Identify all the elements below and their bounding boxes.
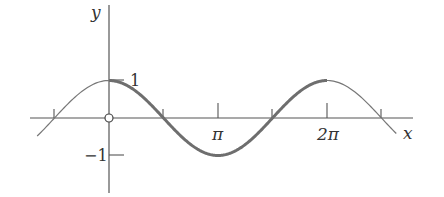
- x-tick-label-2pi: 2π: [316, 124, 340, 144]
- y-axis-label: y: [90, 2, 101, 22]
- y-tick-label-1: 1: [130, 71, 140, 90]
- cosine-graph: y x 1 −1 π 2π: [0, 0, 444, 197]
- y-tick-label-minus-1: −1: [84, 146, 108, 165]
- x-ticks: [54, 103, 381, 118]
- x-axis-label: x: [403, 123, 413, 143]
- x-tick-label-pi: π: [211, 124, 224, 144]
- origin-open-circle: [105, 114, 113, 122]
